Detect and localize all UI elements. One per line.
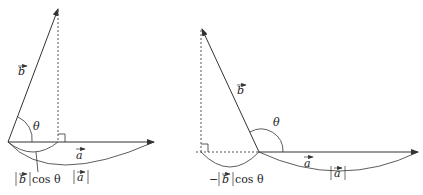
label-projection-vec: b bbox=[222, 173, 229, 186]
theta-arc bbox=[250, 129, 283, 152]
projection-leader-line bbox=[36, 152, 38, 172]
label-vec-a: a bbox=[304, 157, 311, 170]
label-vec-a: a bbox=[76, 149, 83, 162]
vector-b-arrow bbox=[202, 29, 259, 152]
label-projection: cos θ bbox=[235, 173, 264, 186]
right-angle-marker bbox=[201, 144, 208, 152]
right-diagram: b θ a − b cos θ a bbox=[196, 29, 418, 186]
theta-arc bbox=[18, 117, 32, 142]
right-angle-marker bbox=[58, 134, 65, 142]
label-projection-vec: b bbox=[19, 173, 26, 186]
projection-brace-arc bbox=[201, 152, 259, 167]
label-projection: cos θ bbox=[32, 173, 61, 186]
left-diagram: b θ a b cos θ a bbox=[8, 9, 154, 186]
label-vec-b: b bbox=[18, 65, 25, 78]
vector-projection-figure: b θ a b cos θ a b θ a − b cos θ bbox=[0, 0, 423, 195]
label-magnitude-a: a bbox=[334, 167, 341, 180]
label-vec-b: b bbox=[237, 84, 244, 97]
label-theta: θ bbox=[33, 120, 40, 133]
label-negative-sign: − bbox=[209, 173, 218, 186]
label-theta: θ bbox=[273, 116, 280, 129]
projection-brace-arc bbox=[8, 142, 58, 152]
label-magnitude-a: a bbox=[77, 171, 84, 184]
